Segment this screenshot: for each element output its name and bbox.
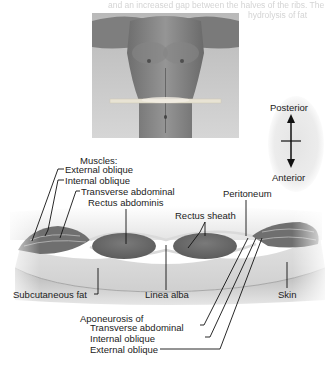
label-transverse-abdominal: Transverse abdominal [81, 186, 175, 197]
label-external-oblique: External oblique [65, 164, 133, 175]
label-subcutaneous-fat: Subcutaneous fat [13, 289, 87, 300]
label-linea-alba: Linea alba [145, 289, 189, 300]
label-rectus-sheath: Rectus sheath [175, 210, 236, 221]
label-rectus-abdominis: Rectus abdominis [88, 197, 164, 208]
label-apo-internal-oblique: Internal oblique [90, 333, 155, 344]
label-apo-external-oblique: External oblique [90, 344, 158, 355]
label-peritoneum: Peritoneum [223, 188, 272, 199]
cross-section-diagram [0, 0, 332, 366]
up-down-arrow-icon [281, 114, 301, 168]
label-internal-oblique: Internal oblique [65, 175, 130, 186]
label-skin: Skin [278, 289, 296, 300]
label-apo-transverse-abdominal: Transverse abdominal [90, 322, 184, 333]
